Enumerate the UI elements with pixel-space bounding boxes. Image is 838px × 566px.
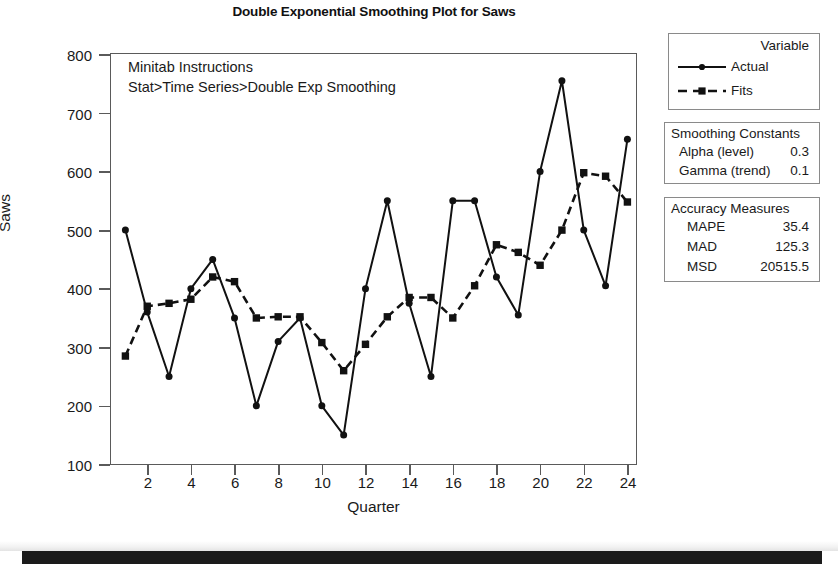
- x-axis-tick-label: 24: [620, 474, 637, 491]
- data-point-fits: [536, 262, 543, 269]
- y-axis-tick-label: 400: [44, 281, 92, 298]
- data-point-fits: [253, 314, 260, 321]
- x-axis-tick-mark: [409, 465, 411, 475]
- y-axis-tick-label: 500: [44, 222, 92, 239]
- x-axis-tick-mark: [453, 465, 455, 475]
- data-point-fits: [602, 173, 609, 180]
- accuracy-measures-box: Accuracy Measures MAPE 35.4 MAD 125.3 MS…: [664, 197, 820, 282]
- y-axis-ticks: 800700600500400300200100: [40, 0, 92, 566]
- y-axis-tick-label: 200: [44, 398, 92, 415]
- page-edge-gradient: [0, 541, 838, 551]
- smoothing-key-alpha: Alpha (level): [679, 144, 754, 159]
- x-axis-label: Quarter: [110, 498, 637, 516]
- data-point-actual: [231, 314, 238, 321]
- data-point-actual: [340, 432, 347, 439]
- data-point-actual: [253, 402, 260, 409]
- x-axis-tick-mark: [191, 465, 193, 475]
- legend-item-actual: Actual: [677, 58, 817, 78]
- accuracy-key-mape: MAPE: [687, 219, 725, 234]
- data-point-fits: [405, 294, 412, 301]
- plot-series-svg: [111, 54, 635, 463]
- accuracy-value-mad: 125.3: [775, 239, 809, 254]
- x-axis-tick-label: 8: [275, 474, 283, 491]
- page-bottom-bar: [22, 551, 822, 564]
- data-point-fits: [493, 241, 500, 248]
- x-axis-tick-label: 4: [187, 474, 195, 491]
- x-axis-tick-mark: [278, 465, 280, 475]
- y-axis-tick-label: 300: [44, 339, 92, 356]
- x-axis-tick-label: 12: [358, 474, 375, 491]
- data-point-actual: [166, 373, 173, 380]
- data-point-fits: [471, 282, 478, 289]
- accuracy-value-msd: 20515.5: [760, 259, 809, 274]
- x-axis-tick-mark: [627, 465, 629, 475]
- smoothing-value-alpha: 0.3: [790, 144, 809, 159]
- series-line-actual: [125, 81, 627, 435]
- y-axis-tick-mark: [99, 464, 110, 466]
- x-axis-tick-mark: [365, 465, 367, 475]
- data-point-fits: [209, 273, 216, 280]
- accuracy-value-mape: 35.4: [783, 219, 809, 234]
- legend-swatch-solid-line: [677, 58, 727, 76]
- y-axis-tick-mark: [99, 406, 110, 408]
- data-point-actual: [471, 197, 478, 204]
- x-axis-tick-label: 14: [401, 474, 418, 491]
- x-axis-tick-label: 10: [314, 474, 331, 491]
- data-point-fits: [515, 249, 522, 256]
- data-point-actual: [187, 285, 194, 292]
- data-point-fits: [384, 313, 391, 320]
- data-point-actual: [602, 282, 609, 289]
- accuracy-measures-heading: Accuracy Measures: [671, 201, 790, 216]
- data-point-fits: [427, 294, 434, 301]
- smoothing-row-gamma: Gamma (trend) 0.1: [671, 163, 815, 182]
- legend-label-actual: Actual: [731, 59, 769, 74]
- legend-label-fits: Fits: [731, 83, 753, 98]
- smoothing-constants-heading: Smoothing Constants: [671, 126, 800, 141]
- y-axis-tick-mark: [99, 347, 110, 349]
- series-line-fits: [125, 173, 627, 371]
- data-point-actual: [537, 168, 544, 175]
- data-point-fits: [318, 339, 325, 346]
- data-point-actual: [580, 227, 587, 234]
- smoothing-value-gamma: 0.1: [790, 163, 809, 178]
- data-point-actual: [122, 227, 129, 234]
- smoothing-key-gamma: Gamma (trend): [679, 163, 771, 178]
- legend-swatch-dashed-line: [677, 82, 727, 100]
- chart-page: Double Exponential Smoothing Plot for Sa…: [0, 0, 838, 566]
- data-point-actual: [362, 285, 369, 292]
- plot-annotation-text: Minitab Instructions Stat>Time Series>Do…: [128, 57, 396, 97]
- data-point-actual: [275, 338, 282, 345]
- accuracy-row-mad: MAD 125.3: [671, 239, 815, 258]
- data-point-actual: [449, 197, 456, 204]
- x-axis-tick-label: 6: [231, 474, 239, 491]
- data-point-actual: [318, 402, 325, 409]
- data-point-actual: [427, 373, 434, 380]
- y-axis-tick-mark: [99, 54, 110, 56]
- y-axis-tick-label: 800: [44, 47, 92, 64]
- y-axis-tick-mark: [99, 113, 110, 115]
- plot-area: [110, 53, 637, 465]
- accuracy-key-mad: MAD: [687, 239, 717, 254]
- data-point-fits: [624, 198, 631, 205]
- data-point-fits: [558, 226, 565, 233]
- x-axis-tick-mark: [496, 465, 498, 475]
- x-axis-tick-mark: [540, 465, 542, 475]
- smoothing-row-alpha: Alpha (level) 0.3: [671, 144, 815, 163]
- y-axis-tick-mark: [99, 171, 110, 173]
- y-axis-tick-label: 700: [44, 105, 92, 122]
- data-point-actual: [493, 273, 500, 280]
- data-point-actual: [624, 136, 631, 143]
- data-point-actual: [209, 256, 216, 263]
- y-axis-tick-label: 600: [44, 164, 92, 181]
- x-axis-tick-mark: [584, 465, 586, 475]
- accuracy-key-msd: MSD: [687, 259, 717, 274]
- data-point-fits: [165, 300, 172, 307]
- data-point-fits: [340, 367, 347, 374]
- x-axis-tick-label: 2: [144, 474, 152, 491]
- x-axis-tick-mark: [234, 465, 236, 475]
- data-point-actual: [384, 197, 391, 204]
- data-point-fits: [580, 169, 587, 176]
- x-axis-tick-label: 22: [576, 474, 593, 491]
- accuracy-row-msd: MSD 20515.5: [671, 259, 815, 278]
- data-point-fits: [296, 313, 303, 320]
